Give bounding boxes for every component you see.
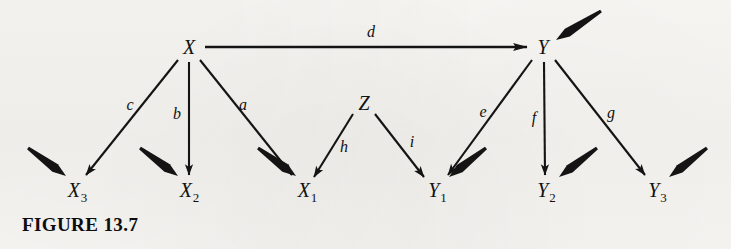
node-Y2: Y2 [537, 180, 555, 200]
disturbance-arrow-Y3 [669, 147, 708, 177]
path-diagram-canvas [0, 0, 731, 249]
path-arrow-i [375, 114, 424, 177]
path-arrow-e [448, 60, 532, 175]
path-coefficient-label-h: h [340, 139, 348, 155]
disturbance-arrow-Y [556, 10, 602, 40]
path-coefficient-label-g: g [607, 105, 615, 121]
path-arrow-a [200, 60, 292, 175]
disturbance-arrow-X1 [257, 147, 296, 176]
node-X1: X1 [298, 180, 317, 200]
path-coefficient-label-d: d [367, 24, 375, 40]
path-coefficient-label-c: c [126, 97, 133, 113]
node-Y: Y [537, 37, 548, 57]
node-Y1: Y1 [428, 180, 446, 200]
path-arrow-c [86, 60, 178, 175]
path-coefficient-label-f: f [532, 110, 536, 126]
disturbance-arrow-Y1 [449, 147, 487, 177]
disturbance-arrow-X3 [27, 147, 66, 176]
disturbance-arrow-Y2 [559, 147, 598, 177]
path-arrow-g [555, 60, 645, 175]
disturbance-arrow-X2 [139, 147, 178, 176]
path-coefficient-label-b: b [173, 106, 181, 122]
node-X3: X3 [68, 180, 87, 200]
path-coefficient-label-i: i [410, 134, 414, 150]
path-coefficient-label-a: a [239, 97, 247, 113]
figure-caption: FIGURE 13.7 [22, 214, 138, 236]
node-X: X [183, 37, 195, 57]
node-Y3: Y3 [648, 180, 666, 200]
node-X2: X2 [180, 180, 199, 200]
path-arrow-f [544, 62, 545, 175]
path-coefficient-label-e: e [479, 104, 486, 120]
node-Z: Z [358, 93, 369, 113]
figure-13-7: XYZX3X2X1Y1Y2Y3 dcbahiefg FIGURE 13.7 [0, 0, 731, 249]
